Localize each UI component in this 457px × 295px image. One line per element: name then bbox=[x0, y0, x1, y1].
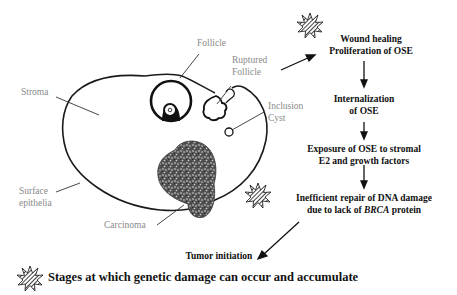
label-surface-2: epithelia bbox=[19, 198, 52, 209]
carcinoma-shape bbox=[158, 141, 216, 218]
inclusion-cyst-shape bbox=[225, 128, 233, 136]
follicle-shape bbox=[151, 81, 191, 121]
label-carcinoma: Carcinoma bbox=[104, 220, 146, 231]
step-inefficient-repair: Inefficient repair of DNA damage due to … bbox=[284, 192, 444, 216]
label-surface-1: Surface bbox=[19, 186, 48, 197]
step-exposure: Exposure of OSE to stromal E2 and growth… bbox=[294, 143, 434, 167]
label-ruptured-follicle-1: Ruptured bbox=[232, 55, 267, 66]
legend-starburst-icon bbox=[17, 266, 43, 291]
label-ruptured-follicle-2: Follicle bbox=[232, 67, 261, 78]
label-inclusion-2: Cyst bbox=[268, 113, 285, 124]
step-wound-healing: Wound healing Proliferation of OSE bbox=[316, 33, 426, 57]
damage-marker-icon bbox=[245, 183, 271, 208]
label-stroma: Stroma bbox=[21, 87, 48, 98]
label-follicle: Follicle bbox=[197, 38, 226, 49]
legend-text: Stages at which genetic damage can occur… bbox=[48, 270, 358, 285]
ruptured-follicle-shape bbox=[203, 96, 226, 120]
step-tumor-initiation: Tumor initiation bbox=[174, 250, 264, 262]
step-internalization: Internalization of OSE bbox=[309, 93, 419, 117]
label-inclusion-1: Inclusion bbox=[268, 101, 303, 112]
